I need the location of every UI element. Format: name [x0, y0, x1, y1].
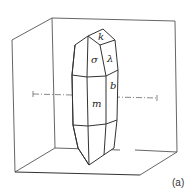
face-label-m: m [92, 98, 101, 109]
face-label-k: k [98, 31, 104, 42]
face-label-b: b [110, 80, 116, 91]
face-label-lambda: λ [106, 53, 113, 64]
face-label-sigma: σ [91, 54, 99, 65]
crystal-diagram: k σ λ b m (a) [0, 0, 193, 192]
crystal [72, 29, 118, 165]
figure-caption: (a) [172, 177, 184, 188]
